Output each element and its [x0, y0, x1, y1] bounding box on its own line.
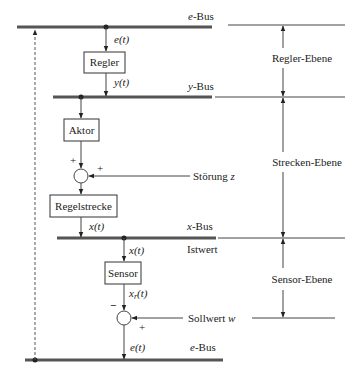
- sum1-sign-top: +: [70, 154, 76, 166]
- sum1-sign-right: +: [97, 162, 103, 174]
- sum2-sign-top: −: [110, 299, 116, 311]
- summing-junction-1: [74, 169, 88, 183]
- strecken-ebene-label: Strecken-Ebene: [272, 156, 342, 168]
- control-loop-bus-diagram: e-Bus y-Bus x-Bus e-Bus e(t) Regler y(t)…: [0, 0, 363, 378]
- y-bus-label: y-Bus: [187, 80, 214, 92]
- signal-y-t: y(t): [113, 76, 130, 89]
- aktor-label: Aktor: [69, 124, 95, 136]
- sensor-ebene-label: Sensor-Ebene: [272, 273, 333, 285]
- signal-e-t-bottom: e(t): [130, 341, 146, 354]
- regler-ebene-label: Regler-Ebene: [272, 52, 332, 64]
- istwert-label: Istwert: [187, 243, 218, 255]
- sollwert-label: Sollwert w: [188, 312, 236, 324]
- summing-junction-2: [117, 311, 131, 325]
- signal-x-t-sensor: x(t): [128, 244, 145, 257]
- stoerung-label: Störung z: [193, 170, 236, 182]
- e-bus-bottom-label: e-Bus: [190, 341, 216, 353]
- sensor-label: Sensor: [108, 267, 138, 279]
- signal-e-t-top: e(t): [114, 33, 130, 46]
- signal-xr-t: xr(t): [128, 287, 148, 301]
- x-bus-label: x-Bus: [186, 220, 213, 232]
- e-bus-top-label: e-Bus: [188, 10, 214, 22]
- regelstrecke-label: Regelstrecke: [55, 200, 112, 212]
- sum2-sign-right: +: [139, 321, 145, 333]
- signal-x-t-plant: x(t): [88, 220, 105, 233]
- regler-label: Regler: [90, 56, 120, 68]
